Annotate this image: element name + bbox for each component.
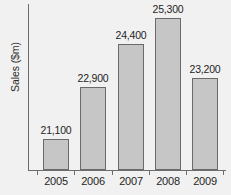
x-axis-label-2009: 2009 — [185, 175, 225, 187]
plot-area: 21,100 22,900 24,400 25,300 23,200 — [29, 4, 226, 170]
x-axis-label-2007: 2007 — [111, 175, 151, 187]
x-axis-label-2008: 2008 — [148, 175, 188, 187]
x-axis-label-2005: 2005 — [36, 175, 76, 187]
bar-chart: Sales ($m) 21,100 22,900 24,400 25,300 2… — [0, 0, 231, 195]
x-axis-label-2006: 2006 — [73, 175, 113, 187]
bar-value-label: 25,300 — [153, 3, 184, 15]
bar-rect[interactable] — [43, 139, 69, 170]
bar-value-label: 22,900 — [78, 72, 109, 84]
bar-value-label: 24,400 — [116, 29, 147, 41]
bar-rect[interactable] — [155, 18, 181, 170]
bar-value-label: 23,200 — [190, 63, 221, 75]
bar-value-label: 21,100 — [41, 124, 72, 136]
bar-rect[interactable] — [80, 87, 106, 170]
bar-rect[interactable] — [118, 44, 144, 170]
x-axis-line — [28, 170, 226, 171]
y-axis-title: Sales ($m) — [9, 33, 23, 101]
bar-rect[interactable] — [192, 78, 218, 170]
